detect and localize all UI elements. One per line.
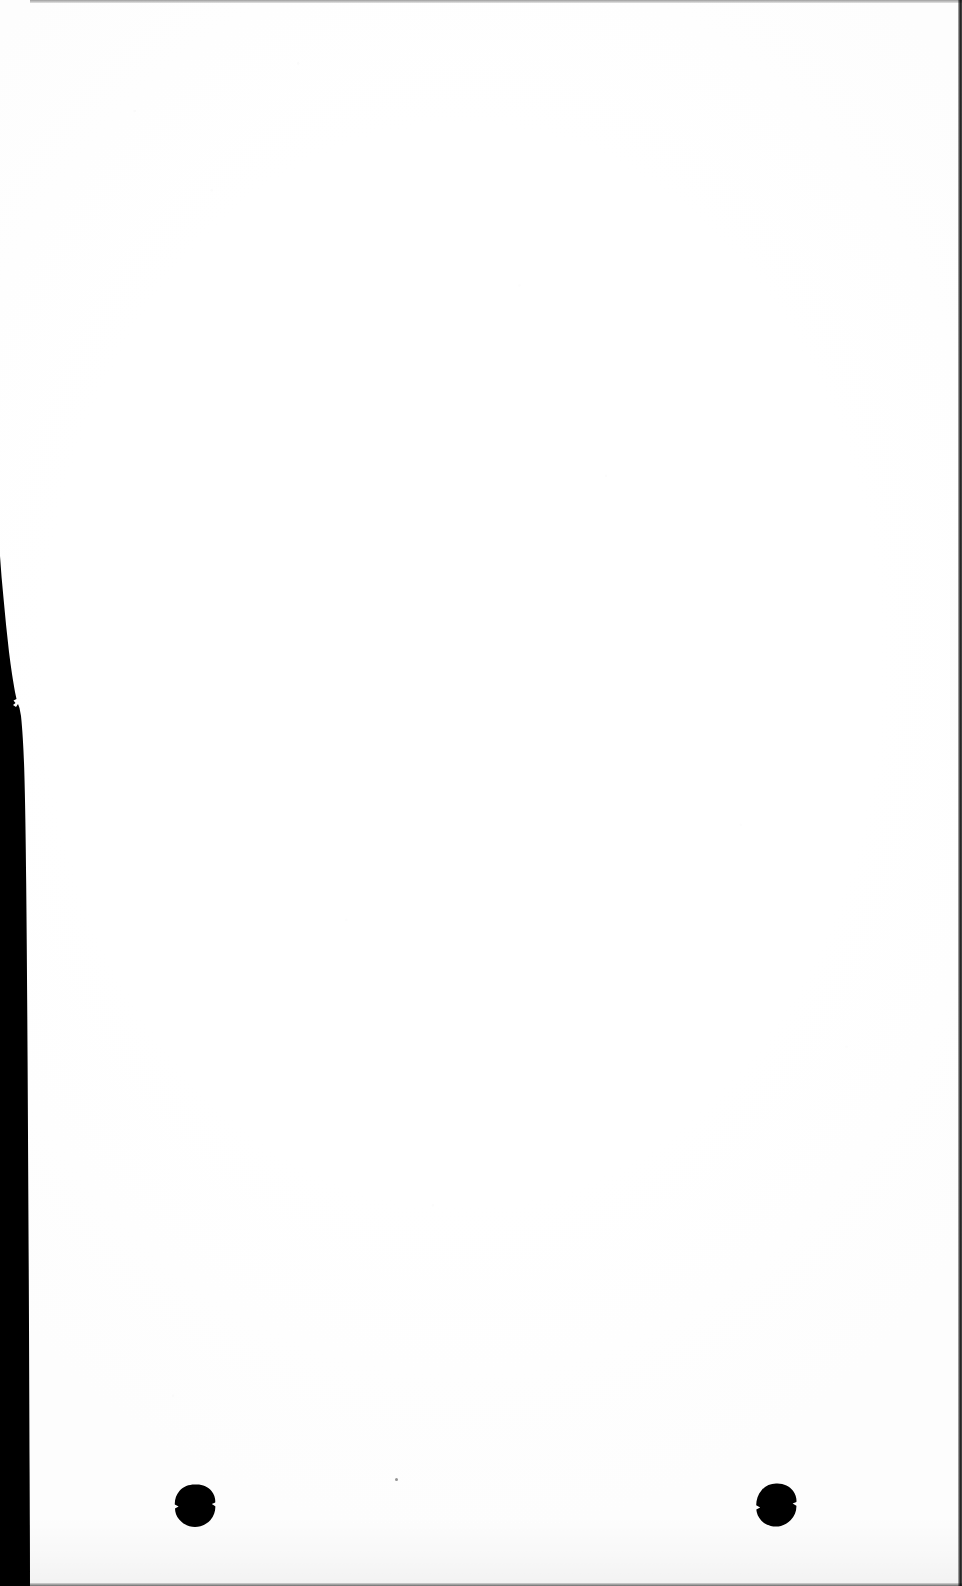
- top-edge-rule: [30, 0, 962, 3]
- page-body-text: [60, 60, 922, 1496]
- right-edge-rule: [958, 0, 962, 1586]
- left-edge-scanner-shadow: [0, 0, 46, 1586]
- scanned-page: [0, 0, 962, 1586]
